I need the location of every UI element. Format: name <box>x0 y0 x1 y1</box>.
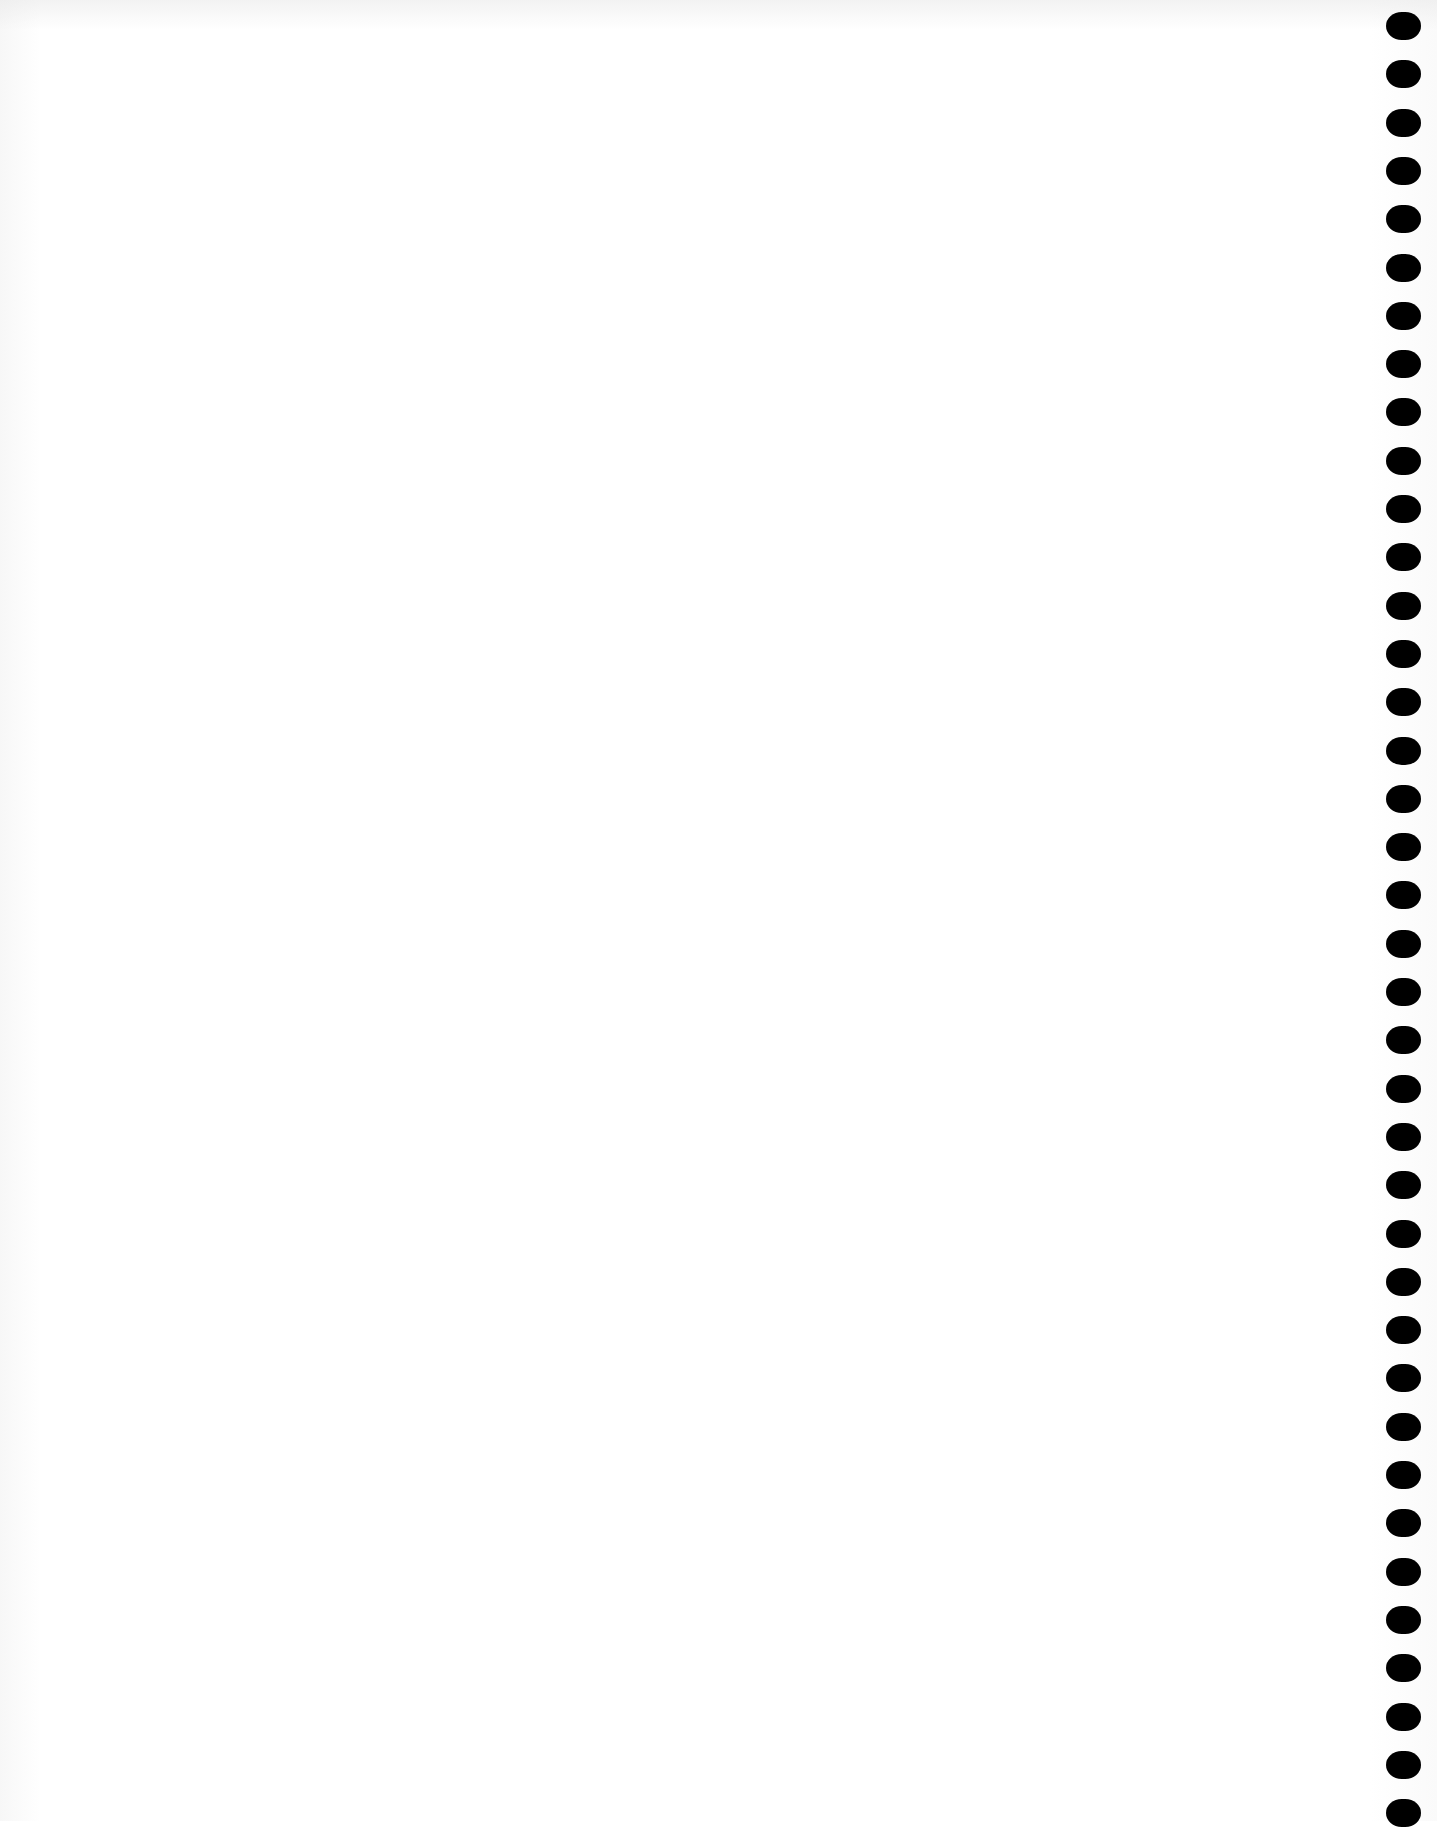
binding-hole <box>1386 12 1421 40</box>
binding-hole <box>1386 640 1421 668</box>
binding-hole <box>1386 495 1421 523</box>
binding-hole <box>1386 1364 1421 1392</box>
binding-hole <box>1386 398 1421 426</box>
binding-hole <box>1386 1509 1421 1537</box>
binding-hole <box>1386 1703 1421 1731</box>
binding-hole <box>1386 1413 1421 1441</box>
binding-hole <box>1386 350 1421 378</box>
scan-edge-shadow <box>0 0 1437 30</box>
binding-hole <box>1386 833 1421 861</box>
binding-hole <box>1386 447 1421 475</box>
binding-hole <box>1386 302 1421 330</box>
binding-hole <box>1386 1461 1421 1489</box>
binding-hole <box>1386 1751 1421 1779</box>
binding-hole <box>1386 254 1421 282</box>
punched-hole-binding-strip <box>1347 0 1437 1821</box>
binding-hole <box>1386 157 1421 185</box>
binding-hole <box>1386 978 1421 1006</box>
binding-hole <box>1386 1654 1421 1682</box>
binding-hole <box>1386 1026 1421 1054</box>
binding-hole <box>1386 1220 1421 1248</box>
binding-hole <box>1386 1075 1421 1103</box>
binding-hole <box>1386 1171 1421 1199</box>
binding-hole <box>1386 881 1421 909</box>
binding-hole <box>1386 592 1421 620</box>
binding-hole <box>1386 1123 1421 1151</box>
binding-hole <box>1386 930 1421 958</box>
binding-hole <box>1386 1799 1421 1827</box>
binding-hole <box>1386 1268 1421 1296</box>
binding-hole <box>1386 205 1421 233</box>
binding-hole <box>1386 1606 1421 1634</box>
binding-hole <box>1386 60 1421 88</box>
binding-hole <box>1386 785 1421 813</box>
binding-hole <box>1386 688 1421 716</box>
binding-hole <box>1386 1558 1421 1586</box>
binding-hole <box>1386 543 1421 571</box>
binding-hole <box>1386 737 1421 765</box>
binding-hole <box>1386 1316 1421 1344</box>
binding-hole <box>1386 109 1421 137</box>
